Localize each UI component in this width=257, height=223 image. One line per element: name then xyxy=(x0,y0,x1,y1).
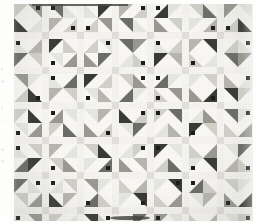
quilt-patch-unit xyxy=(98,109,112,123)
triangle-patch xyxy=(238,193,252,207)
sashing-strip xyxy=(217,214,224,221)
triangle-patch xyxy=(133,39,147,53)
sashing-strip xyxy=(189,137,217,144)
sashing-strip xyxy=(182,74,189,102)
triangle-patch xyxy=(168,18,182,32)
quilt-patch-unit xyxy=(49,18,63,32)
triangle-patch xyxy=(203,214,217,221)
sashing-cornerstone xyxy=(217,207,224,214)
quilt-patch-unit xyxy=(189,123,203,137)
quilt-patch-unit xyxy=(98,88,112,102)
sashing-strip xyxy=(77,214,84,221)
sashing-strip xyxy=(189,207,217,214)
sashing-strip xyxy=(119,172,147,179)
triangle-patch xyxy=(14,4,28,18)
triangle-patch xyxy=(154,158,168,172)
sashing-strip xyxy=(49,32,77,39)
triangle-patch xyxy=(189,74,203,88)
triangle-patch xyxy=(28,53,42,67)
sashing-strip xyxy=(77,74,84,102)
dark-accent-square xyxy=(226,26,230,30)
sashing-strip xyxy=(147,144,154,172)
sashing-strip xyxy=(14,67,42,74)
quilt-block xyxy=(154,109,182,137)
triangle-patch xyxy=(203,193,217,207)
quilt-patch-unit xyxy=(133,74,147,88)
triangle-patch xyxy=(203,74,217,88)
quilt-block xyxy=(154,179,182,207)
triangle-patch xyxy=(133,193,147,207)
triangle-patch xyxy=(84,214,98,221)
quilt-block xyxy=(49,109,77,137)
quilt-patch-unit xyxy=(224,123,238,137)
sashing-strip xyxy=(112,109,119,137)
quilt-patch-unit xyxy=(168,193,182,207)
sashing-strip xyxy=(217,109,224,137)
quilt-patch-unit xyxy=(14,158,28,172)
sashing-strip xyxy=(49,102,77,109)
triangle-patch xyxy=(133,179,147,193)
quilt-patch-unit xyxy=(98,193,112,207)
triangle-patch xyxy=(189,158,203,172)
sashing-cornerstone xyxy=(42,102,49,109)
dark-accent-square xyxy=(141,76,145,80)
triangle-patch xyxy=(98,39,112,53)
sashing-cornerstone xyxy=(77,32,84,39)
quilt-patch-unit xyxy=(98,123,112,137)
quilt-block xyxy=(154,4,182,32)
triangle-patch xyxy=(189,4,203,18)
quilt-patch-unit xyxy=(238,179,252,193)
triangle-patch xyxy=(49,193,63,207)
sashing-strip xyxy=(189,32,217,39)
sashing-cornerstone xyxy=(77,137,84,144)
quilt-patch-unit xyxy=(49,4,63,18)
triangle-patch xyxy=(28,158,42,172)
quilt-block-grid xyxy=(14,4,253,221)
quilt-patch-unit xyxy=(203,18,217,32)
quilt-patch-unit xyxy=(189,179,203,193)
triangle-patch xyxy=(119,123,133,137)
triangle-patch xyxy=(28,18,42,32)
dark-accent-square xyxy=(36,181,40,185)
triangle-patch xyxy=(238,4,252,18)
quilt-patch-unit xyxy=(224,4,238,18)
sashing-strip xyxy=(84,32,112,39)
triangle-patch xyxy=(63,214,77,221)
quilt-patch-unit xyxy=(189,4,203,18)
triangle-patch xyxy=(28,109,42,123)
triangle-patch xyxy=(133,53,147,67)
dark-accent-square xyxy=(246,111,250,115)
quilt-patch-unit xyxy=(28,39,42,53)
quilt-patch-unit xyxy=(84,193,98,207)
dark-accent-square xyxy=(86,201,90,205)
triangle-patch xyxy=(84,39,98,53)
quilt-patch-unit xyxy=(119,193,133,207)
triangle-patch xyxy=(238,109,252,123)
triangle-patch xyxy=(203,158,217,172)
quilt-patch-unit xyxy=(189,39,203,53)
sashing-cornerstone xyxy=(112,102,119,109)
sashing-cornerstone xyxy=(77,67,84,74)
quilt-block xyxy=(49,144,77,172)
quilt-patch-unit xyxy=(224,39,238,53)
triangle-patch xyxy=(168,39,182,53)
quilt-patch-unit xyxy=(203,123,217,137)
quilt-patch-unit xyxy=(133,123,147,137)
quilt-patch-unit xyxy=(203,53,217,67)
sashing-cornerstone xyxy=(147,102,154,109)
dark-accent-square xyxy=(246,216,250,220)
dark-accent-square xyxy=(106,166,110,170)
triangle-patch xyxy=(189,18,203,32)
triangle-patch xyxy=(154,179,168,193)
dark-accent-square xyxy=(51,166,55,170)
left-margin-text-fragments: rot-es. xyxy=(0,0,13,223)
quilt-patch-unit xyxy=(238,158,252,172)
sashing-strip xyxy=(119,207,147,214)
sashing-strip xyxy=(84,207,112,214)
triangle-patch xyxy=(119,179,133,193)
sashing-strip xyxy=(42,4,49,32)
sashing-cornerstone xyxy=(182,137,189,144)
triangle-patch xyxy=(224,18,238,32)
quilt-patch-unit xyxy=(49,214,63,221)
quilt-patch-unit xyxy=(224,88,238,102)
